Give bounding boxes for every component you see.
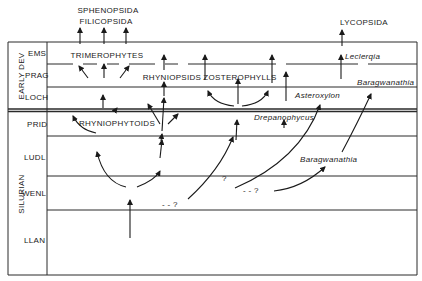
arrow-trimerophyte-left (79, 66, 88, 78)
uncertain-mark-3: - - ? (243, 186, 259, 195)
label-sphenopsida: SPHENOPSIDA (77, 6, 138, 15)
label-rhyniopsids: RHYNIOPSIDS (143, 73, 201, 82)
phylogeny-diagram: EARLY DEV SILURIAN EMS PRAG LOCH PRID LU… (0, 0, 422, 281)
taxon-baragwanathia-lower: Baragwanathia (300, 155, 358, 164)
arrow-trimerophyte-right (120, 66, 129, 78)
arrow-to-baragwanathia-upper (342, 94, 371, 152)
stage-label-llan: LLAN (24, 236, 45, 245)
arrow-rhyniopsid-stem (162, 98, 164, 131)
uncertain-mark-1: - - ? (162, 200, 178, 209)
stage-boundaries (8, 64, 417, 210)
taxon-asteroxylon: Asteroxylon (294, 91, 340, 100)
arrow-wenl-left-arc (97, 152, 126, 187)
stage-label-ems: EMS (28, 49, 46, 58)
arrow-wenl-right-arc (137, 171, 160, 187)
label-filicopsida: FILICOPSIDA (79, 17, 132, 26)
stage-label-wenl: WENL (22, 189, 47, 198)
arrow-ludl-up (160, 140, 162, 158)
arrow-zosterophyll-arc-right (242, 91, 268, 106)
taxon-baragwanathia-upper: Baragwanathia (357, 78, 415, 87)
taxon-leclerqia: Leclerqia (345, 52, 380, 61)
stage-label-loch: LOCH (25, 93, 48, 102)
arrow-to-drepanophycus (188, 137, 233, 199)
label-zosterophylls: ZOSTEROPHYLLS (203, 73, 276, 82)
stage-label-ludl: LUDL (24, 153, 46, 162)
uncertain-mark-2: ? (222, 174, 227, 183)
arrow-zosterophyll-arc-left (208, 91, 234, 106)
stage-label-prag: PRAG (25, 71, 49, 80)
label-rhyniophytoids: RHYNIOPHYTOIDS (79, 119, 155, 128)
label-trimerophytes: TRIMEROPHYTES (71, 51, 144, 60)
arrow-to-zosterophyll-stem (236, 120, 237, 140)
arrow-to-baragwanathia-lower (274, 167, 325, 191)
stage-label-prid: PRID (27, 120, 47, 129)
label-lycopsida: LYCOPSIDA (340, 18, 388, 27)
arrow-rhyniopsid-branch-right (168, 114, 178, 124)
